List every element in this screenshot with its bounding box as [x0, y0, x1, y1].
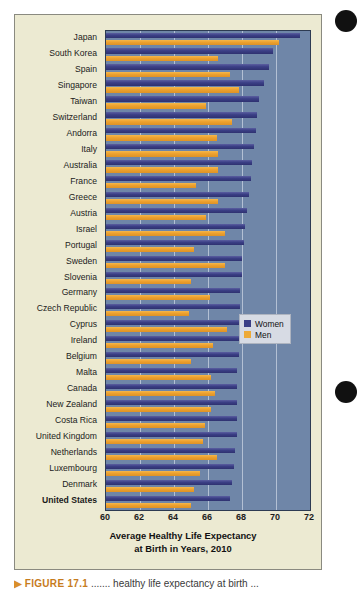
bar-row — [106, 398, 310, 414]
bar-men — [106, 215, 206, 220]
bar-women — [106, 48, 273, 53]
bar-row — [106, 207, 310, 223]
bar-men — [106, 455, 217, 460]
bar-women — [106, 128, 256, 133]
bar-row — [106, 286, 310, 302]
x-axis-title: Average Healthy Life Expectancy at Birth… — [55, 529, 311, 555]
country-label: Costa Rica — [55, 413, 97, 429]
bar-women — [106, 352, 239, 357]
legend-swatch-men-icon — [244, 331, 251, 338]
x-tick-label-68: 68 — [236, 512, 246, 522]
bar-row — [106, 478, 310, 494]
bar-men — [106, 295, 210, 300]
country-label: Japan — [74, 30, 97, 46]
bar-row — [106, 350, 310, 366]
bar-men — [106, 359, 191, 364]
x-tick-label-64: 64 — [168, 512, 178, 522]
country-label: Slovenia — [64, 270, 97, 286]
x-tick-label-62: 62 — [134, 512, 144, 522]
bar-row — [106, 159, 310, 175]
bar-women — [106, 160, 252, 165]
bar-men — [106, 439, 203, 444]
x-axis-title-line2: at Birth in Years, 2010 — [55, 542, 311, 555]
bar-women — [106, 384, 237, 389]
bar-women — [106, 320, 239, 325]
bar-women — [106, 496, 230, 501]
bar-men — [106, 135, 217, 140]
bar-row — [106, 255, 310, 271]
x-tick-label-72: 72 — [304, 512, 314, 522]
bar-row — [106, 191, 310, 207]
bar-women — [106, 304, 240, 309]
bar-row — [106, 47, 310, 63]
bar-men — [106, 487, 194, 492]
bar-row — [106, 95, 310, 111]
bar-men — [106, 327, 227, 332]
page-edge-marker-top-icon — [335, 10, 357, 32]
caption-figure-number: FIGURE 17.1 — [25, 578, 88, 589]
bar-women — [106, 464, 234, 469]
bar-men — [106, 407, 211, 412]
bar-men — [106, 311, 189, 316]
bar-men — [106, 231, 225, 236]
x-tick-label-60: 60 — [100, 512, 110, 522]
country-label: Greece — [69, 190, 97, 206]
bar-men — [106, 119, 232, 124]
bar-women — [106, 192, 249, 197]
page-edge-marker-bottom-icon — [335, 381, 357, 403]
bar-women — [106, 416, 237, 421]
bar-men — [106, 471, 200, 476]
bar-men — [106, 40, 279, 45]
bar-women — [106, 432, 237, 437]
bar-women — [106, 112, 257, 117]
bar-women — [106, 208, 247, 213]
bar-row — [106, 223, 310, 239]
bar-women — [106, 33, 300, 38]
country-label: Ireland — [71, 333, 97, 349]
bar-row — [106, 430, 310, 446]
x-axis-title-line1: Average Healthy Life Expectancy — [55, 529, 311, 542]
country-label: Czech Republic — [37, 301, 97, 317]
bar-row — [106, 127, 310, 143]
bar-men — [106, 247, 194, 252]
bar-row — [106, 446, 310, 462]
country-label: Switzerland — [53, 110, 97, 126]
country-label: Germany — [62, 285, 97, 301]
chart-plot-area: Women Men — [105, 30, 311, 511]
country-label: United Kingdom — [36, 429, 97, 445]
figure-panel: JapanSouth KoreaSpainSingaporeTaiwanSwit… — [14, 14, 322, 570]
country-label: Taiwan — [70, 94, 97, 110]
bar-men — [106, 343, 213, 348]
bar-men — [106, 151, 218, 156]
country-label: Luxembourg — [49, 461, 97, 477]
country-label: Cyprus — [70, 317, 97, 333]
bar-row — [106, 366, 310, 382]
caption-text: ....... healthy life expectancy at birth… — [91, 578, 259, 589]
bar-row — [106, 63, 310, 79]
country-label: Italy — [81, 142, 97, 158]
bar-women — [106, 400, 237, 405]
country-label: Israel — [76, 222, 97, 238]
bar-men — [106, 423, 205, 428]
bar-men — [106, 263, 225, 268]
bar-men — [106, 87, 239, 92]
bar-row — [106, 462, 310, 478]
bar-row — [106, 79, 310, 95]
bar-women — [106, 224, 245, 229]
bar-women — [106, 336, 239, 341]
country-label: Belgium — [66, 349, 97, 365]
bar-women — [106, 80, 264, 85]
country-label: Netherlands — [51, 445, 97, 461]
bar-women — [106, 64, 269, 69]
bar-row — [106, 494, 310, 510]
bar-row — [106, 271, 310, 287]
country-label: Australia — [64, 158, 97, 174]
bar-row — [106, 111, 310, 127]
bar-women — [106, 480, 232, 485]
legend-label-women: Women — [255, 319, 284, 329]
bar-women — [106, 448, 235, 453]
legend-label-men: Men — [255, 330, 271, 340]
x-tick-label-66: 66 — [202, 512, 212, 522]
country-label: South Korea — [49, 46, 97, 62]
country-label-column: JapanSouth KoreaSpainSingaporeTaiwanSwit… — [15, 30, 101, 511]
